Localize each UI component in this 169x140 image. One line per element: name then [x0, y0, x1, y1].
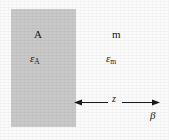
permittivity-m-label: εm: [106, 53, 116, 66]
figure-canvas: A εA m εm z β: [0, 0, 169, 140]
epsilon-subscript-a: A: [34, 57, 39, 66]
separation-distance-label: z: [112, 94, 116, 104]
medium-m-label: m: [112, 29, 121, 40]
beta-label: β: [150, 110, 155, 121]
permittivity-a-label: εA: [30, 53, 40, 66]
medium-a-label: A: [34, 29, 42, 40]
medium-a-slab: [11, 9, 76, 127]
separation-arrow-icon: [74, 95, 160, 111]
epsilon-subscript-m: m: [110, 57, 116, 66]
